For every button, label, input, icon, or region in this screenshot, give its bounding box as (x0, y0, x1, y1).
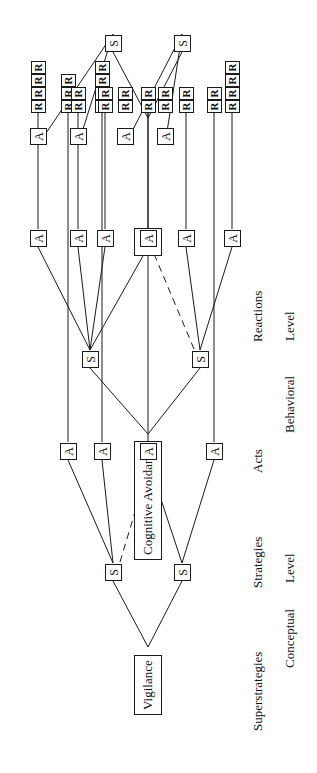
level-label-conceptual-line2: Level (282, 553, 297, 583)
superstrategy-vigilance: Vigilance (134, 655, 162, 715)
reaction-node-label: R (33, 77, 44, 85)
act-node-label: A (33, 132, 45, 141)
reaction-node-label: R (160, 103, 171, 111)
level-label-behavioral-level: Level (282, 311, 298, 341)
strategy-node: S (82, 351, 99, 368)
reaction-node: R (98, 100, 113, 113)
act-node-label: A (120, 132, 132, 141)
reaction-node: R (98, 87, 113, 100)
reaction-node-label: R (73, 103, 84, 111)
strategy-node: S (174, 564, 191, 581)
reaction-node: R (179, 100, 194, 113)
row-label-reactions-text: Reactions (250, 291, 265, 342)
reaction-node-label: R (120, 103, 131, 111)
reaction-node: R (31, 74, 46, 87)
reaction-node-label: R (97, 64, 108, 72)
reaction-node: R (179, 87, 194, 100)
reaction-node-label: R (120, 90, 131, 98)
strategy-node-label: S (177, 40, 189, 47)
reaction-node: R (95, 74, 110, 87)
reaction-node-label: R (97, 77, 108, 85)
reaction-node-label: R (227, 64, 238, 72)
reaction-node-label: R (143, 103, 154, 111)
reaction-node: R (31, 61, 46, 74)
act-node: A (70, 128, 87, 145)
level-label-conceptual-level: Level (282, 553, 298, 583)
act-node-label: A (100, 234, 112, 243)
act-node-label: A (33, 234, 45, 243)
reaction-node-label: R (209, 90, 220, 98)
reaction-node: R (225, 100, 240, 113)
reaction-node-label: R (63, 77, 74, 85)
reaction-node-label: R (33, 64, 44, 72)
superstrategy-cognitive-avoidance-label: Cognitive Avoidance (140, 446, 156, 555)
reaction-node-label: R (227, 90, 238, 98)
act-node: A (70, 230, 87, 247)
reaction-node-label: R (160, 90, 171, 98)
act-node-label: A (209, 447, 221, 456)
act-node: A (30, 128, 47, 145)
reaction-node: R (31, 100, 46, 113)
act-node-label: A (143, 234, 155, 243)
reaction-node: R (95, 61, 110, 74)
act-node-label: A (181, 234, 193, 243)
reaction-node-label: R (100, 90, 111, 98)
superstrategy-vigilance-label: Vigilance (140, 660, 156, 710)
reaction-node: R (158, 100, 173, 113)
reaction-node: R (71, 100, 86, 113)
act-node: A (140, 443, 157, 460)
reaction-node: R (141, 87, 156, 100)
strategy-node: S (192, 351, 209, 368)
strategy-node: S (105, 35, 122, 52)
reaction-node: R (225, 87, 240, 100)
reaction-node-label: R (181, 90, 192, 98)
reaction-node: R (31, 87, 46, 100)
act-node-label: A (143, 447, 155, 456)
act-node: A (178, 230, 195, 247)
strategy-node-label: S (177, 569, 189, 576)
act-node: A (206, 443, 223, 460)
act-node: A (157, 128, 174, 145)
act-node: A (94, 443, 111, 460)
strategy-node: S (174, 35, 191, 52)
reaction-node-label: R (33, 90, 44, 98)
act-node: A (97, 230, 114, 247)
reaction-node-label: R (209, 103, 220, 111)
row-label-superstrategies: Superstrategies (250, 652, 266, 731)
figure-canvas: Vigilance Cognitive Avoidance ? Superstr… (0, 0, 317, 773)
reaction-node-label: R (33, 103, 44, 111)
reaction-node: R (71, 87, 86, 100)
act-node-label: A (227, 234, 239, 243)
act-node: A (30, 230, 47, 247)
row-label-strategies-text: Strategies (250, 537, 265, 588)
strategy-node: S (105, 564, 122, 581)
level-label-behavioral: Behavioral (282, 376, 298, 433)
reaction-node: R (207, 100, 222, 113)
act-node: A (117, 128, 134, 145)
strategy-node-label: S (195, 356, 207, 363)
level-label-behavioral-line2: Level (282, 311, 297, 341)
level-label-behavioral-line1: Behavioral (282, 376, 297, 433)
reaction-node-label: R (227, 103, 238, 111)
level-label-conceptual-line1: Conceptual (282, 609, 297, 668)
reaction-node-label: R (100, 103, 111, 111)
act-node: A (60, 443, 77, 460)
reaction-node-label: R (73, 90, 84, 98)
act-node-label: A (97, 447, 109, 456)
level-label-conceptual: Conceptual (282, 609, 298, 668)
reaction-node: R (225, 74, 240, 87)
reaction-node: R (61, 74, 76, 87)
row-label-superstrategies-text: Superstrategies (250, 652, 265, 731)
act-node-label: A (160, 132, 172, 141)
reaction-node: R (118, 87, 133, 100)
act-node: A (140, 230, 157, 247)
act-node: A (224, 230, 241, 247)
row-label-reactions: Reactions (250, 291, 266, 342)
reaction-node: R (141, 100, 156, 113)
reaction-node: R (118, 100, 133, 113)
reaction-node: R (207, 87, 222, 100)
row-label-acts-text: Acts (250, 449, 265, 473)
act-node-label: A (73, 234, 85, 243)
act-node-label: A (63, 447, 75, 456)
strategy-node-label: S (108, 40, 120, 47)
